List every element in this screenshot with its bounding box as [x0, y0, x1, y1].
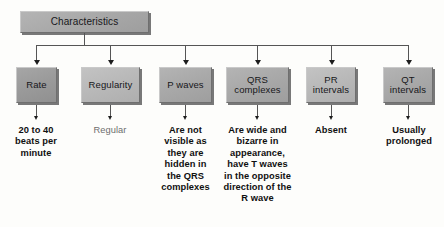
node-qt-intervals: QT intervals: [383, 67, 433, 103]
arrow-into-caption-qrs-complexes: [255, 116, 259, 120]
arrow-into-rate: [34, 60, 40, 65]
caption-stem-pr-intervals: [331, 105, 332, 116]
root-stem-line: [84, 33, 85, 45]
caption-stem-p-waves: [185, 105, 186, 116]
node-rate: Rate: [16, 67, 57, 103]
drop-line-qt-intervals: [408, 45, 409, 60]
node-qrs-complexes-label: QRS complexes: [227, 75, 288, 96]
caption-pr-intervals: Absent: [302, 125, 360, 136]
arrow-into-p-waves: [183, 60, 189, 65]
caption-stem-rate: [36, 105, 37, 116]
caption-qt-intervals: Usually prolonged: [380, 125, 438, 148]
node-p-waves: P waves: [159, 67, 212, 103]
drop-line-regularity: [110, 45, 111, 60]
distributor-bus-line: [36, 45, 409, 46]
arrow-into-caption-rate: [34, 116, 38, 120]
arrow-into-regularity: [108, 60, 114, 65]
node-qt-intervals-label: QT intervals: [384, 75, 432, 96]
caption-qrs-complexes: Are wide and bizarre in appearance, have…: [222, 125, 293, 205]
arrow-into-caption-p-waves: [183, 116, 187, 120]
drop-line-rate: [36, 45, 37, 60]
arrow-into-caption-qt-intervals: [406, 116, 410, 120]
arrow-into-qt-intervals: [406, 60, 412, 65]
root-node-characteristics: Characteristics: [20, 11, 149, 33]
caption-regularity: Regular: [80, 125, 140, 136]
node-pr-intervals-label: PR intervals: [307, 75, 355, 96]
node-p-waves-label: P waves: [164, 80, 206, 91]
arrow-into-pr-intervals: [329, 60, 335, 65]
root-node-label: Characteristics: [48, 17, 122, 28]
node-regularity-label: Regularity: [86, 80, 136, 91]
caption-stem-regularity: [110, 105, 111, 116]
node-qrs-complexes: QRS complexes: [226, 67, 289, 103]
drop-line-pr-intervals: [331, 45, 332, 60]
arrow-into-caption-pr-intervals: [329, 116, 333, 120]
arrow-into-caption-regularity: [108, 116, 112, 120]
caption-stem-qrs-complexes: [257, 105, 258, 116]
drop-line-qrs-complexes: [257, 45, 258, 60]
arrow-into-qrs-complexes: [255, 60, 261, 65]
drop-line-p-waves: [185, 45, 186, 60]
caption-p-waves: Are not visible as they are hidden in th…: [157, 125, 214, 193]
caption-rate: 20 to 40 beats per minute: [5, 125, 67, 159]
characteristics-flowchart: Characteristics Rate Regularity P waves …: [0, 0, 444, 227]
node-rate-label: Rate: [23, 80, 49, 91]
node-regularity: Regularity: [81, 67, 140, 103]
caption-stem-qt-intervals: [408, 105, 409, 116]
node-pr-intervals: PR intervals: [306, 67, 356, 103]
